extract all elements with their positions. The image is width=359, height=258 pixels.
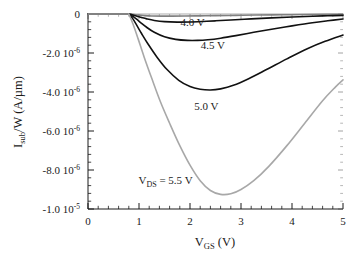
curve-5-5-v (129, 14, 343, 195)
x-tick-labels: 012345 (85, 215, 346, 227)
curve-4-5-v (129, 14, 343, 41)
x-tick-label: 2 (187, 215, 193, 227)
curve-label-4-0v: 4.0 V (180, 16, 204, 28)
x-tick-label: 0 (85, 215, 91, 227)
y-tick-label: -8.0 10-6 (43, 163, 81, 176)
y-tick-label: -1.0 10-5 (43, 202, 81, 215)
curve-5-0-v (129, 14, 343, 90)
substrate-current-chart: 012345 0-2.0 10-6-4.0 10-6-6.0 10-6-8.0 … (0, 0, 359, 258)
figure-root: 012345 0-2.0 10-6-4.0 10-6-6.0 10-6-8.0 … (0, 0, 359, 258)
y-tick-label: -4.0 10-6 (43, 85, 81, 98)
x-tick-label: 4 (289, 215, 295, 227)
x-tick-label: 1 (136, 215, 142, 227)
curve-label-4-5v: 4.5 V (201, 39, 225, 51)
svg-text:Isub/W (A/µm): Isub/W (A/µm) (11, 76, 27, 148)
x-tick-label: 5 (340, 215, 346, 227)
y-axis-title: Isub/W (A/µm) (11, 76, 27, 148)
curve-label-vds-5-5v: VDS = 5.5 V (138, 174, 192, 189)
x-tick-label: 3 (238, 215, 244, 227)
y-tick-label: 0 (75, 8, 81, 20)
x-axis-title: VGS (V) (195, 235, 235, 251)
y-tick-label: -6.0 10-6 (43, 124, 81, 137)
y-tick-labels: 0-2.0 10-6-4.0 10-6-6.0 10-6-8.0 10-6-1.… (43, 8, 81, 215)
curve-label-5-0v: 5.0 V (194, 100, 218, 112)
y-tick-label: -2.0 10-6 (43, 46, 81, 59)
svg-text:VGS (V): VGS (V) (195, 235, 235, 251)
curve-annotations: 4.0 V4.5 V5.0 VVDS = 5.5 V (138, 16, 225, 189)
